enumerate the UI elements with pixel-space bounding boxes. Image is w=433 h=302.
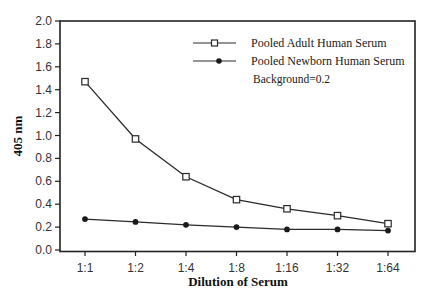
y-tick-label: 0.0 <box>35 243 52 257</box>
x-tick-label: 1:2 <box>127 261 144 275</box>
y-tick-label: 1.2 <box>35 106 52 120</box>
y-axis-title: 405 nm <box>10 115 25 156</box>
x-tick-label: 1:1 <box>77 261 94 275</box>
y-tick-label: 2.0 <box>35 14 52 28</box>
data-point-square-marker <box>233 196 239 202</box>
data-point-square-marker <box>132 136 138 142</box>
x-tick-label: 1:16 <box>275 261 299 275</box>
series-layer <box>82 78 391 233</box>
data-point-square-marker <box>334 212 340 218</box>
data-point-circle-marker <box>385 228 391 234</box>
legend-label-adult: Pooled Adult Human Serum <box>251 36 387 50</box>
y-tick-label: 1.0 <box>35 129 52 143</box>
y-tick-label: 0.6 <box>35 174 52 188</box>
x-tick-label: 1:4 <box>178 261 195 275</box>
data-point-circle-marker <box>234 224 240 230</box>
y-tick-label: 0.2 <box>35 220 52 234</box>
x-tick-label: 1:32 <box>326 261 350 275</box>
y-tick-label: 1.6 <box>35 60 52 74</box>
data-point-circle-marker <box>82 216 88 222</box>
legend-square-marker-icon <box>212 40 218 46</box>
background-annotation: Background=0.2 <box>253 73 330 86</box>
x-axis: 1:11:21:41:81:161:321:64 <box>77 251 400 275</box>
data-point-square-marker <box>183 174 189 180</box>
data-point-circle-marker <box>335 226 341 232</box>
data-point-circle-marker <box>133 219 139 225</box>
y-axis: 0.00.20.40.60.81.01.21.41.61.82.0 <box>35 14 60 257</box>
x-tick-label: 1:8 <box>228 261 245 275</box>
y-tick-label: 0.4 <box>35 197 52 211</box>
x-tick-label: 1:64 <box>376 261 400 275</box>
legend-circle-marker-icon <box>216 58 222 64</box>
legend: Pooled Adult Human Serum Pooled Newborn … <box>193 36 405 86</box>
x-axis-title: Dilution of Serum <box>188 274 288 289</box>
y-tick-label: 0.8 <box>35 151 52 165</box>
y-tick-label: 1.4 <box>35 83 52 97</box>
data-point-square-marker <box>385 220 391 226</box>
data-point-circle-marker <box>183 222 189 228</box>
legend-label-newborn: Pooled Newborn Human Serum <box>251 54 405 68</box>
data-point-circle-marker <box>284 226 290 232</box>
data-point-square-marker <box>284 206 290 212</box>
data-point-square-marker <box>82 78 88 84</box>
line-chart: 0.00.20.40.60.81.01.21.41.61.82.0 1:11:2… <box>0 0 433 302</box>
y-tick-label: 1.8 <box>35 37 52 51</box>
